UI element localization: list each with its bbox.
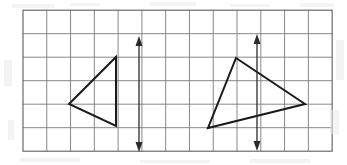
geometry-figure (0, 0, 347, 165)
canvas-background (0, 0, 347, 165)
figure-canvas (0, 0, 347, 165)
